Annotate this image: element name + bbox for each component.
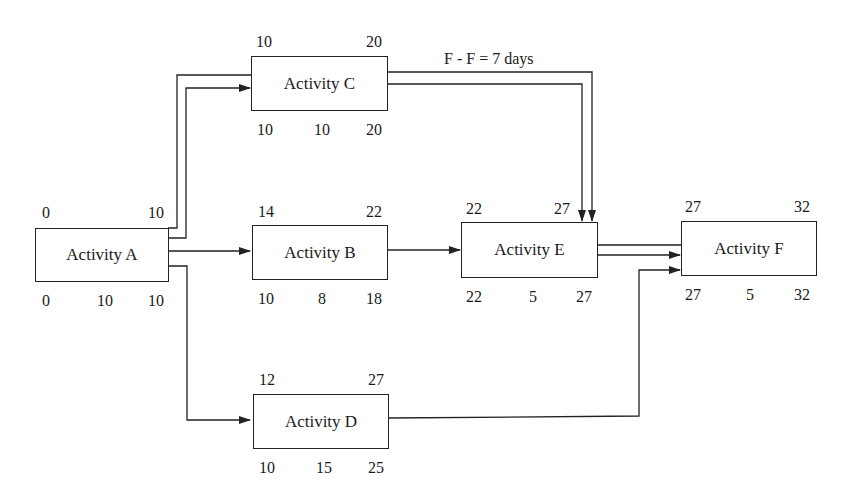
activity-b-bottom-left: 10 [258, 291, 274, 307]
activity-d-bottom-left: 10 [259, 460, 275, 476]
activity-c-node: Activity C [251, 56, 388, 111]
activity-d-label: Activity D [285, 412, 357, 432]
activity-c-bottom-left: 10 [257, 122, 273, 138]
activity-f-bottom-left: 27 [685, 287, 701, 303]
activity-c-top-right: 20 [366, 34, 382, 50]
activity-a-node: Activity A [35, 228, 169, 282]
activity-e-top-left: 22 [466, 201, 482, 217]
activity-e-bottom-right: 27 [576, 289, 592, 305]
activity-a-top-left: 0 [42, 205, 50, 221]
activity-b-top-left: 14 [258, 204, 274, 220]
activity-e-top-right: 27 [554, 201, 570, 217]
activity-b-node: Activity B [252, 225, 388, 280]
activity-f-top-right: 32 [794, 199, 810, 215]
activity-b-bottom-mid: 8 [318, 291, 326, 307]
precedence-diagram: Activity A 0 10 0 10 10 Activity B 14 22… [0, 0, 842, 504]
activity-c-label: Activity C [284, 74, 355, 94]
activity-c-bottom-mid: 10 [314, 122, 330, 138]
activity-d-top-left: 12 [259, 372, 275, 388]
link-a-c-inner [168, 88, 250, 238]
activity-a-bottom-right: 10 [148, 293, 164, 309]
finish-finish-lag-annotation: F - F = 7 days [444, 51, 533, 67]
link-c-e-outer [387, 72, 592, 221]
activity-a-label: Activity A [66, 245, 137, 265]
activity-a-top-right: 10 [148, 205, 164, 221]
activity-d-top-right: 27 [368, 372, 384, 388]
activity-f-node: Activity F [681, 221, 817, 276]
activity-d-bottom-right: 25 [368, 460, 384, 476]
activity-a-bottom-left: 0 [42, 293, 50, 309]
activity-f-top-left: 27 [685, 199, 701, 215]
activity-a-bottom-mid: 10 [97, 293, 113, 309]
activity-f-label: Activity F [714, 239, 783, 259]
activity-e-label: Activity E [494, 240, 564, 260]
activity-b-top-right: 22 [366, 204, 382, 220]
activity-b-label: Activity B [284, 243, 355, 263]
activity-e-bottom-mid: 5 [529, 289, 537, 305]
activity-f-bottom-right: 32 [794, 287, 810, 303]
link-c-e-inner [387, 84, 582, 221]
activity-e-bottom-left: 22 [466, 289, 482, 305]
activity-c-bottom-right: 20 [366, 122, 382, 138]
link-a-c-outer [168, 75, 252, 228]
activity-d-bottom-mid: 15 [316, 460, 332, 476]
activity-f-bottom-mid: 5 [746, 287, 754, 303]
activity-e-node: Activity E [461, 222, 598, 278]
activity-b-bottom-right: 18 [366, 291, 382, 307]
activity-d-node: Activity D [253, 394, 389, 449]
link-a-d [168, 266, 250, 420]
activity-c-top-left: 10 [256, 34, 272, 50]
